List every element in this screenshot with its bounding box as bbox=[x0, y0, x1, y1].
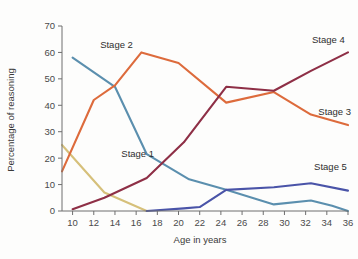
y-tick-label: 50 bbox=[44, 73, 55, 84]
x-tick-label: 16 bbox=[131, 217, 142, 228]
series-label-stage-1: Stage 1 bbox=[121, 148, 154, 159]
x-tick-label: 20 bbox=[173, 217, 184, 228]
y-axis-title: Percentage of reasoning bbox=[5, 68, 16, 172]
series-label-stage-3: Stage 3 bbox=[318, 106, 351, 117]
x-tick-label: 28 bbox=[258, 217, 269, 228]
series-line-stage-2 bbox=[73, 58, 348, 211]
series-label-stage-5: Stage 5 bbox=[314, 161, 347, 172]
y-tick-label: 70 bbox=[44, 20, 55, 31]
series-label-stage-2: Stage 2 bbox=[100, 39, 133, 50]
x-tick-label: 10 bbox=[67, 217, 78, 228]
x-tick-label: 36 bbox=[343, 217, 354, 228]
x-tick-label: 30 bbox=[279, 217, 290, 228]
y-tick-label: 20 bbox=[44, 153, 55, 164]
x-axis-title: Age in years bbox=[174, 234, 227, 245]
x-tick-label: 32 bbox=[300, 217, 311, 228]
axes-layer bbox=[58, 26, 348, 215]
y-tick-label: 30 bbox=[44, 126, 55, 137]
line-chart: 0102030405060701012141618202224262830323… bbox=[0, 0, 358, 259]
y-tick-label: 60 bbox=[44, 47, 55, 58]
x-tick-label: 18 bbox=[152, 217, 163, 228]
series-label-stage-4: Stage 4 bbox=[312, 34, 345, 45]
x-tick-label: 22 bbox=[194, 217, 205, 228]
x-tick-label: 34 bbox=[322, 217, 333, 228]
x-tick-label: 14 bbox=[110, 217, 121, 228]
y-tick-label: 40 bbox=[44, 100, 55, 111]
x-tick-label: 24 bbox=[216, 217, 227, 228]
chart-canvas: 0102030405060701012141618202224262830323… bbox=[0, 0, 358, 259]
y-tick-label: 0 bbox=[50, 205, 55, 216]
series-layer bbox=[62, 52, 348, 211]
x-tick-label: 26 bbox=[237, 217, 248, 228]
series-line-stage-3 bbox=[62, 52, 348, 171]
y-tick-label: 10 bbox=[44, 179, 55, 190]
x-tick-label: 12 bbox=[88, 217, 99, 228]
